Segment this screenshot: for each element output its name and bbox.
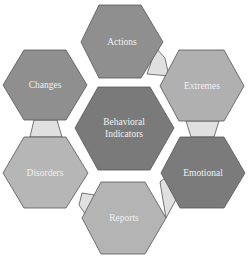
hex-changes-label: Changes <box>29 80 62 90</box>
hex-disorders-label: Disorders <box>27 168 64 178</box>
hex-center: Behavioral Indicators <box>75 87 174 170</box>
hex-actions-label: Actions <box>107 37 137 47</box>
center-label-line-2: Indicators <box>105 129 143 139</box>
hex-extremes-label: Extremes <box>184 81 220 91</box>
connector-extremes-emotional <box>186 121 219 137</box>
hex-extremes: Extremes <box>160 50 244 121</box>
hex-disorders: Disorders <box>3 137 88 208</box>
connector-disorders-changes <box>30 120 62 137</box>
hex-reports-label: Reports <box>109 213 139 223</box>
hex-emotional-label: Emotional <box>183 168 223 178</box>
hex-reports: Reports <box>82 182 166 254</box>
hexagon-cycle-diagram: Actions Extremes Emotional Reports Disor… <box>0 0 248 259</box>
center-label-line-1: Behavioral <box>103 117 145 127</box>
hex-changes: Changes <box>3 50 87 120</box>
